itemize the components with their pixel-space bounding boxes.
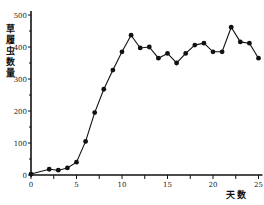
data-point-marker bbox=[220, 49, 225, 54]
y-tick-label: 500 bbox=[14, 12, 27, 20]
x-tick-label: 5 bbox=[74, 181, 78, 189]
data-point-marker bbox=[29, 172, 34, 177]
x-tick-label: 10 bbox=[118, 181, 127, 189]
data-point-marker bbox=[238, 39, 243, 44]
y-axis-label-char: 虫 bbox=[4, 46, 16, 57]
x-tick-label: 25 bbox=[254, 181, 263, 189]
data-point-marker bbox=[138, 46, 143, 51]
data-point-marker bbox=[211, 49, 216, 54]
data-point-marker bbox=[74, 160, 79, 165]
data-point-marker bbox=[83, 139, 88, 144]
data-point-marker bbox=[192, 43, 197, 48]
data-point-marker bbox=[65, 166, 70, 171]
data-point-marker bbox=[56, 168, 61, 173]
x-tick-label: 15 bbox=[163, 181, 172, 189]
data-point-marker bbox=[183, 51, 188, 56]
data-point-marker bbox=[165, 51, 170, 56]
data-point-marker bbox=[256, 56, 261, 61]
y-axis-label-char: 数 bbox=[4, 57, 16, 68]
data-point-marker bbox=[147, 45, 152, 50]
series-line bbox=[31, 27, 259, 174]
axis-ticks: 01002003004005000510152025 bbox=[14, 12, 263, 190]
data-point-marker bbox=[174, 61, 179, 66]
line-chart: 01002003004005000510152025 bbox=[0, 0, 264, 205]
data-point-marker bbox=[247, 41, 252, 46]
data-point-marker bbox=[229, 25, 234, 30]
data-point-marker bbox=[101, 87, 106, 92]
data-point-marker bbox=[202, 41, 207, 46]
data-point-marker bbox=[111, 68, 116, 73]
data-point-marker bbox=[47, 167, 52, 172]
y-tick-label: 0 bbox=[23, 172, 27, 180]
data-point-marker bbox=[129, 33, 134, 38]
y-tick-label: 100 bbox=[14, 140, 27, 148]
y-axis-label-char: 履 bbox=[4, 35, 16, 46]
x-tick-label: 0 bbox=[29, 181, 33, 189]
data-series bbox=[29, 25, 261, 177]
y-axis-label-char: 草 bbox=[4, 24, 16, 35]
data-point-marker bbox=[120, 49, 125, 54]
x-tick-label: 20 bbox=[209, 181, 218, 189]
data-point-marker bbox=[156, 56, 161, 61]
y-axis-label: 草 履 虫 数 量 bbox=[4, 24, 16, 79]
data-point-marker bbox=[92, 110, 97, 115]
x-axis-label: 天数 bbox=[226, 188, 248, 201]
y-axis-label-char: 量 bbox=[4, 68, 16, 79]
y-tick-label: 200 bbox=[14, 108, 27, 116]
